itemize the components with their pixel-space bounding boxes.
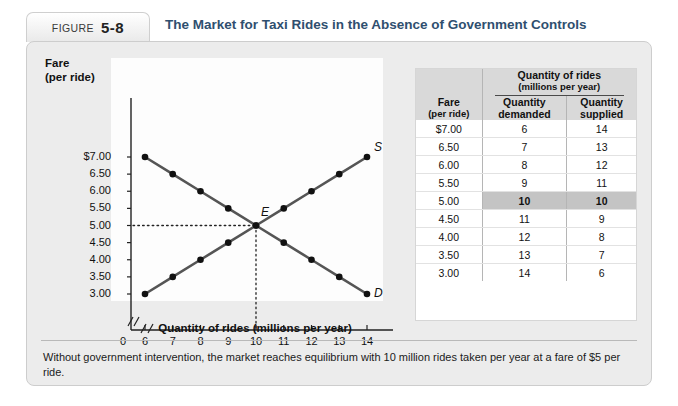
cell-fare: 6.50 bbox=[416, 138, 482, 156]
cell-quantity-supplied: 7 bbox=[567, 246, 636, 264]
cell-quantity-demanded: 9 bbox=[482, 174, 567, 192]
demand-data-point bbox=[280, 239, 287, 246]
table-header-group-row: Fare (per ride) Quantity of rides (milli… bbox=[416, 69, 636, 96]
supply-data-point bbox=[308, 188, 315, 195]
cell-fare: $7.00 bbox=[416, 120, 482, 138]
demand-data-point bbox=[197, 188, 204, 195]
header-demanded-sub: demanded bbox=[498, 108, 551, 120]
demand-data-point bbox=[142, 154, 149, 161]
cell-fare: 4.00 bbox=[416, 228, 482, 246]
figure-root: FIGURE 5-8 The Market for Taxi Rides in … bbox=[0, 0, 678, 406]
table-row: 6.00812 bbox=[416, 156, 636, 174]
cell-quantity-demanded: 8 bbox=[482, 156, 567, 174]
demand-curve-label: D bbox=[374, 286, 383, 300]
supply-data-point bbox=[197, 256, 204, 263]
cell-quantity-demanded: 7 bbox=[482, 138, 567, 156]
equilibrium-label: E bbox=[261, 205, 269, 219]
cell-quantity-supplied: 9 bbox=[567, 210, 636, 228]
demand-data-point bbox=[336, 274, 343, 281]
x-axis-tick-label: 7 bbox=[161, 335, 185, 347]
header-fare: Fare (per ride) bbox=[416, 69, 482, 120]
table-row: 4.50119 bbox=[416, 210, 636, 228]
table-row: 3.50137 bbox=[416, 246, 636, 264]
supply-data-point bbox=[364, 154, 371, 161]
cell-quantity-supplied: 14 bbox=[567, 120, 636, 138]
table-header: Fare (per ride) Quantity of rides (milli… bbox=[416, 69, 636, 120]
figure-number-tab: FIGURE 5-8 bbox=[26, 12, 150, 42]
supply-data-point bbox=[169, 274, 176, 281]
supply-data-point bbox=[336, 171, 343, 178]
cell-fare: 5.00 bbox=[416, 192, 482, 210]
cell-quantity-demanded: 6 bbox=[482, 120, 567, 138]
table-body: $7.006146.507136.008125.509115.0010104.5… bbox=[416, 120, 636, 281]
caption-divider bbox=[41, 340, 637, 341]
supply-data-point bbox=[280, 205, 287, 212]
cell-quantity-demanded: 11 bbox=[482, 210, 567, 228]
cell-quantity-demanded: 14 bbox=[482, 264, 567, 282]
x-axis-tick-label: 8 bbox=[189, 335, 213, 347]
table-row: 3.00146 bbox=[416, 264, 636, 282]
header-group-text: Quantity of rides bbox=[518, 69, 601, 81]
cell-quantity-supplied: 10 bbox=[567, 192, 636, 210]
cell-fare: 5.50 bbox=[416, 174, 482, 192]
cell-quantity-supplied: 11 bbox=[567, 174, 636, 192]
x-axis-tick-label: 13 bbox=[327, 335, 351, 347]
chart-plot-svg bbox=[27, 42, 397, 338]
x-axis-tick-label: 9 bbox=[216, 335, 240, 347]
table-row: 6.50713 bbox=[416, 138, 636, 156]
demand-data-point bbox=[225, 205, 232, 212]
x-axis-tick-label: 6 bbox=[133, 335, 157, 347]
header-quantity-supplied: Quantity supplied bbox=[567, 96, 636, 120]
supply-data-point bbox=[225, 239, 232, 246]
supply-data-point bbox=[253, 222, 260, 229]
x-axis-tick-label: 10 bbox=[244, 335, 268, 347]
demand-data-point bbox=[308, 256, 315, 263]
chart: Fare (per ride) $7.006.506.005.505.004.5… bbox=[27, 42, 397, 338]
x-axis-tick-label: 11 bbox=[272, 335, 296, 347]
header-fare-sub: (per ride) bbox=[416, 108, 482, 120]
cell-quantity-demanded: 12 bbox=[482, 228, 567, 246]
supply-data-point bbox=[142, 291, 149, 298]
data-table-container: Fare (per ride) Quantity of rides (milli… bbox=[415, 68, 637, 321]
header-demanded-text: Quantity bbox=[503, 96, 546, 108]
figure-header: FIGURE 5-8 The Market for Taxi Rides in … bbox=[26, 12, 652, 42]
cell-quantity-supplied: 12 bbox=[567, 156, 636, 174]
cell-quantity-supplied: 8 bbox=[567, 228, 636, 246]
cell-fare: 3.50 bbox=[416, 246, 482, 264]
header-group-sub: (millions per year) bbox=[483, 81, 636, 93]
figure-number: 5-8 bbox=[101, 19, 124, 36]
x-axis-tick-label: 14 bbox=[355, 335, 379, 347]
x-axis-tick-label: 12 bbox=[300, 335, 324, 347]
cell-quantity-demanded: 13 bbox=[482, 246, 567, 264]
demand-data-point bbox=[364, 291, 371, 298]
x-axis-origin-label: 0 bbox=[111, 335, 135, 347]
supply-curve-label: S bbox=[374, 140, 382, 154]
figure-label: FIGURE bbox=[52, 22, 94, 34]
cell-fare: 3.00 bbox=[416, 264, 482, 282]
figure-caption: Without government intervention, the mar… bbox=[43, 350, 639, 380]
table-row: 5.001010 bbox=[416, 192, 636, 210]
table-row: $7.00614 bbox=[416, 120, 636, 138]
table-row: 5.50911 bbox=[416, 174, 636, 192]
header-quantity-group: Quantity of rides (millions per year) bbox=[482, 69, 636, 96]
cell-quantity-demanded: 10 bbox=[482, 192, 567, 210]
cell-fare: 4.50 bbox=[416, 210, 482, 228]
table-row: 4.00128 bbox=[416, 228, 636, 246]
figure-body: Fare (per ride) $7.006.506.005.505.004.5… bbox=[26, 41, 652, 386]
header-supplied-text: Quantity bbox=[580, 96, 623, 108]
cell-quantity-supplied: 6 bbox=[567, 264, 636, 282]
figure-title: The Market for Taxi Rides in the Absence… bbox=[165, 17, 587, 32]
cell-fare: 6.00 bbox=[416, 156, 482, 174]
demand-data-point bbox=[169, 171, 176, 178]
header-supplied-sub: supplied bbox=[580, 108, 623, 120]
quantity-table: Fare (per ride) Quantity of rides (milli… bbox=[416, 69, 636, 281]
header-fare-text: Fare bbox=[438, 96, 460, 108]
header-quantity-demanded: Quantity demanded bbox=[482, 96, 567, 120]
x-axis-title: Quantity of rides (millions per year) bbox=[115, 322, 395, 334]
cell-quantity-supplied: 13 bbox=[567, 138, 636, 156]
